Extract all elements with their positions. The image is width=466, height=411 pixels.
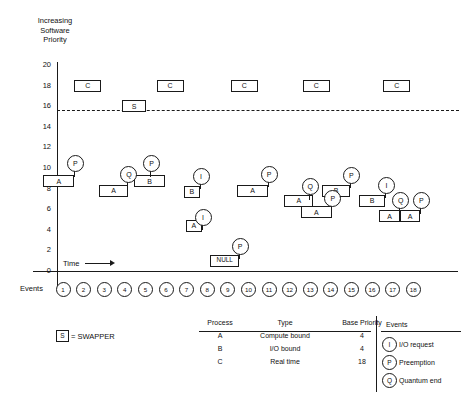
- event-circle-16[interactable]: 16: [365, 282, 380, 297]
- event-marker-p-8: P: [324, 190, 341, 207]
- y-tick-label-20: 20: [35, 61, 51, 69]
- time-arrow-line: [85, 263, 111, 264]
- tables-divider: [376, 316, 377, 392]
- event-marker-q-11: Q: [392, 192, 409, 209]
- process-box-b-9: B: [184, 186, 200, 198]
- time-axis-label: Time: [63, 259, 79, 268]
- event-circle-10[interactable]: 10: [241, 282, 256, 297]
- event-circle-13[interactable]: 13: [303, 282, 318, 297]
- process-box-a-6: A: [43, 175, 74, 187]
- event-marker-i-4: I: [195, 209, 212, 226]
- process-table-th-type: Type: [244, 318, 326, 329]
- event-circle-5[interactable]: 5: [138, 282, 153, 297]
- process-table-cell: Real time: [244, 355, 326, 368]
- figure-canvas: Increasing Software Priority 02468101214…: [0, 0, 466, 411]
- event-circle-1[interactable]: 1: [56, 282, 71, 297]
- legend-symbol-q-icon: Q: [382, 373, 397, 388]
- process-table-cell: I/O bound: [244, 342, 326, 355]
- process-box-a-17: A: [379, 210, 400, 222]
- y-tick-label-12: 12: [35, 143, 51, 151]
- y-tick-label-16: 16: [35, 102, 51, 110]
- event-circle-18[interactable]: 18: [406, 282, 421, 297]
- process-box-c-4: C: [383, 80, 410, 92]
- events-legend-header-rule: [381, 331, 461, 332]
- process-table-header-rule: [199, 331, 371, 332]
- process-table-cell: B: [196, 342, 244, 355]
- process-box-s-5: S: [122, 100, 147, 112]
- event-marker-p-6: P: [261, 166, 278, 183]
- process-box-c-2: C: [231, 80, 258, 92]
- event-circle-11[interactable]: 11: [262, 282, 277, 297]
- process-table-th-process: Process: [196, 318, 244, 329]
- event-circle-2[interactable]: 2: [76, 282, 91, 297]
- events-legend-item-i: II/O request: [382, 337, 434, 352]
- event-circle-14[interactable]: 14: [323, 282, 338, 297]
- process-box-null-11: NULL: [210, 255, 239, 267]
- process-box-c-3: C: [303, 80, 330, 92]
- y-tick-label-10: 10: [35, 164, 51, 172]
- y-tick-label-6: 6: [35, 205, 51, 213]
- y-axis-title-line-2: Software: [26, 26, 84, 36]
- events-row-label: Events: [20, 284, 43, 293]
- event-circle-12[interactable]: 12: [282, 282, 297, 297]
- event-circle-6[interactable]: 6: [159, 282, 174, 297]
- event-marker-p-12: P: [413, 192, 430, 209]
- events-legend-item-p: PPreemption: [382, 355, 435, 370]
- y-axis-line: [57, 62, 58, 273]
- process-table-header-row: Process Type Base Priority: [196, 318, 398, 329]
- legend-text: I/O request: [397, 341, 434, 348]
- process-box-b-8: B: [134, 175, 165, 187]
- event-marker-q-7: Q: [302, 178, 319, 195]
- event-circle-7[interactable]: 7: [179, 282, 194, 297]
- y-axis-title: Increasing Software Priority: [26, 16, 84, 45]
- process-table-cell: C: [196, 355, 244, 368]
- process-box-c-1: C: [157, 80, 184, 92]
- y-tick-label-14: 14: [35, 123, 51, 131]
- event-marker-i-3: I: [193, 168, 210, 185]
- event-circle-8[interactable]: 8: [200, 282, 215, 297]
- time-arrow-head-icon: [110, 260, 115, 266]
- events-legend-header: Events: [386, 321, 407, 328]
- process-box-a-14: A: [301, 206, 332, 218]
- y-axis-title-line-3: Priority: [26, 35, 84, 45]
- swapper-legend-box: S: [56, 330, 69, 342]
- event-circle-17[interactable]: 17: [385, 282, 400, 297]
- process-box-a-12: A: [237, 185, 268, 197]
- swapper-legend-text: = SWAPPER: [71, 332, 115, 341]
- y-tick-label-2: 2: [35, 246, 51, 254]
- event-marker-p-0: P: [67, 155, 84, 172]
- event-marker-q-1: Q: [120, 166, 137, 183]
- y-tick-label-4: 4: [35, 226, 51, 234]
- event-marker-p-2: P: [143, 155, 160, 172]
- process-box-b-16: B: [359, 195, 386, 207]
- event-circle-3[interactable]: 3: [97, 282, 112, 297]
- legend-symbol-p-icon: P: [382, 355, 397, 370]
- process-box-a-18: A: [400, 210, 421, 222]
- legend-text: Preemption: [397, 359, 435, 366]
- x-axis-line: [33, 271, 458, 272]
- y-axis-title-line-1: Increasing: [26, 16, 84, 26]
- event-marker-p-5: P: [232, 238, 249, 255]
- events-legend-item-q: QQuantum end: [382, 373, 441, 388]
- event-circle-15[interactable]: 15: [344, 282, 359, 297]
- event-marker-i-10: I: [378, 177, 395, 194]
- event-circle-4[interactable]: 4: [117, 282, 132, 297]
- y-tick-label-0: 0: [35, 267, 51, 275]
- process-table-row: BI/O bound4: [196, 342, 398, 355]
- process-box-a-7: A: [99, 185, 128, 197]
- swapper-threshold-line: [57, 110, 459, 111]
- process-table: Process Type Base Priority ACompute boun…: [196, 318, 398, 368]
- process-box-c-0: C: [74, 80, 101, 92]
- legend-text: Quantum end: [397, 377, 441, 384]
- y-tick-label-18: 18: [35, 82, 51, 90]
- event-circle-9[interactable]: 9: [220, 282, 235, 297]
- process-table-row: CReal time18: [196, 355, 398, 368]
- legend-symbol-i-icon: I: [382, 337, 397, 352]
- event-marker-p-9: P: [343, 167, 360, 184]
